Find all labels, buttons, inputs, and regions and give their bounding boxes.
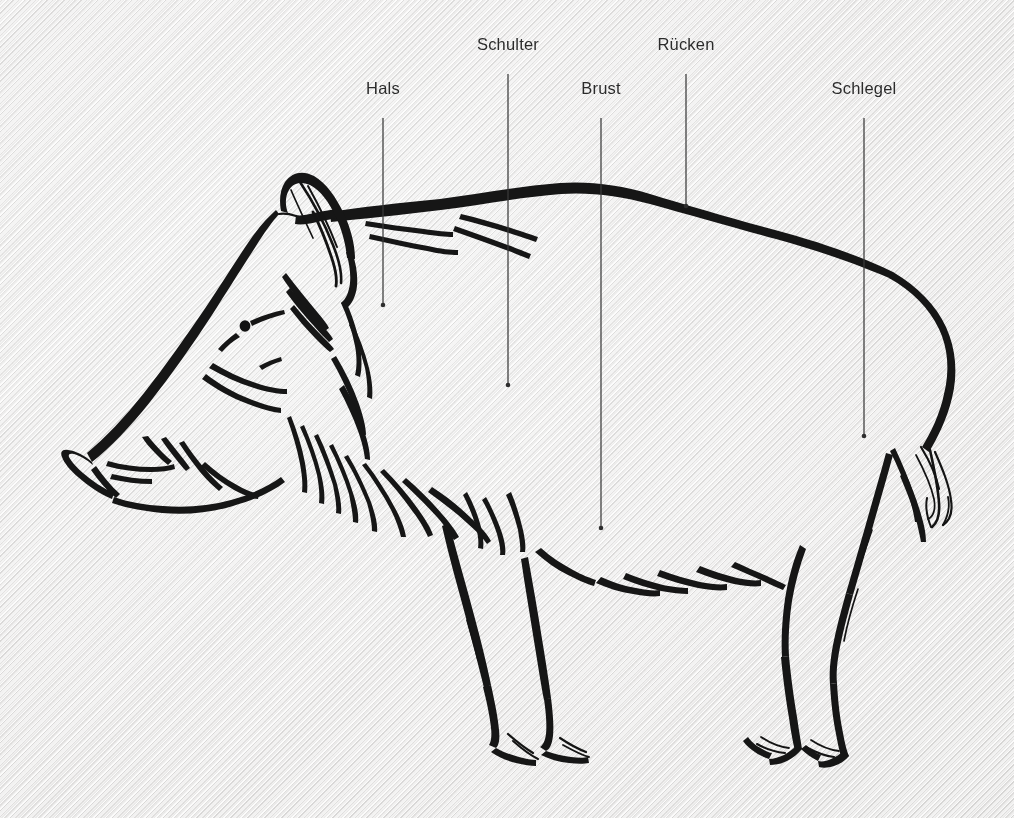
label-ruecken: Rücken (657, 35, 714, 54)
diagram-canvas: Hals Schulter Brust Rücken Schlegel (0, 0, 1014, 818)
leader-line-hals (381, 118, 386, 307)
label-hals: Hals (366, 79, 400, 98)
leader-line-schulter (506, 74, 511, 387)
label-schlegel: Schlegel (832, 79, 897, 98)
leader-lines-layer (0, 0, 1014, 818)
leader-line-ruecken (684, 74, 689, 208)
leader-line-schlegel (862, 118, 867, 438)
leader-line-brust (599, 118, 604, 530)
label-schulter: Schulter (477, 35, 539, 54)
label-brust: Brust (581, 79, 621, 98)
